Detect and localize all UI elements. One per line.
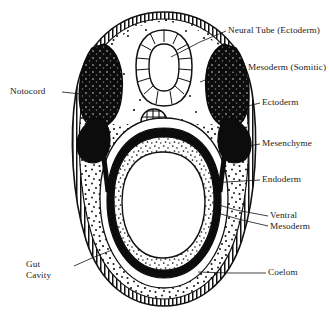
- label-ventral-mesoderm-line2: Mesoderm: [270, 221, 310, 232]
- embryo-body: [72, 12, 255, 306]
- label-ventral-mesoderm: Ventral Mesoderm: [270, 210, 310, 231]
- neural-lumen: [149, 44, 179, 91]
- label-ventral-mesoderm-line1: Ventral: [270, 210, 310, 221]
- label-gut-cavity-line2: Cavity: [26, 270, 51, 281]
- label-gut-cavity-line1: Gut: [26, 259, 51, 270]
- label-neural-tube: Neural Tube (Ectoderm): [228, 25, 320, 36]
- somite-left: [79, 44, 122, 128]
- label-notocord: Notocord: [10, 86, 46, 97]
- gut-cavity: [122, 152, 205, 258]
- neural-tube: [136, 30, 192, 106]
- label-mesenchyme: Mesenchyme: [262, 138, 312, 149]
- label-ectoderm: Ectoderm: [262, 97, 299, 108]
- label-endoderm: Endoderm: [262, 174, 301, 185]
- label-gut-cavity: Gut Cavity: [26, 259, 51, 280]
- label-mesoderm-somitic: Mesoderm (Somitic): [248, 62, 326, 73]
- label-coelom: Coelom: [268, 267, 298, 278]
- somite-right: [206, 44, 249, 128]
